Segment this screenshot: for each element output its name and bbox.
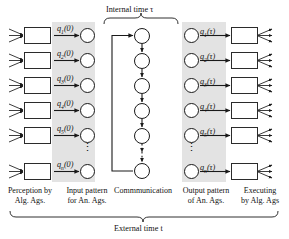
input-state-label: q4(0) [57,100,73,110]
communication-feedback-loop [112,36,133,172]
caption-line: Executing [231,186,289,196]
output-state-label: qn(τ) [200,164,215,174]
perception-fan-in-arrows [9,29,23,178]
external-time-label: External time t [114,224,163,233]
output-state-label: q3(τ) [200,78,215,88]
input-state-label: q3(0) [57,75,73,85]
input-state-label: qn(0) [57,161,73,171]
output-ellipsis: ⋮ [184,145,199,149]
figure-root: q1(0) q2(0) q3(0) q4(0) q5(0) qn(0) q1(τ… [0,0,289,239]
output-state-label: q1(τ) [200,28,215,38]
column-caption-communication: Commmunication [105,186,181,196]
internal-time-brace [104,13,178,24]
external-time-brace [10,211,278,222]
input-ellipsis: ⋮ [80,145,95,149]
caption-line: Commmunication [105,186,181,196]
executing-fan-out-arrows [258,29,272,178]
column-caption-perception: Perception by Alg. Ags. [0,186,60,206]
input-state-label: q1(0) [57,25,73,35]
caption-line: Alg. Ags. [0,196,60,206]
caption-line: Output pattern [177,186,235,196]
input-state-label: q2(0) [57,50,73,60]
column-caption-executing: Executing by Alg. Ags [231,186,289,206]
caption-line: of An. Ags. [177,196,235,206]
caption-line: for An. Ags. [58,196,116,206]
internal-time-label: Internal time τ [106,5,153,14]
caption-line: Perception by [0,186,60,196]
caption-line: by Alg. Ags [231,196,289,206]
input-state-label: q5(0) [57,125,73,135]
output-state-label: q2(τ) [200,53,215,63]
output-state-label: q4(τ) [200,103,215,113]
output-state-label: q5(τ) [200,128,215,138]
column-caption-output-pattern: Output pattern of An. Ags. [177,186,235,206]
